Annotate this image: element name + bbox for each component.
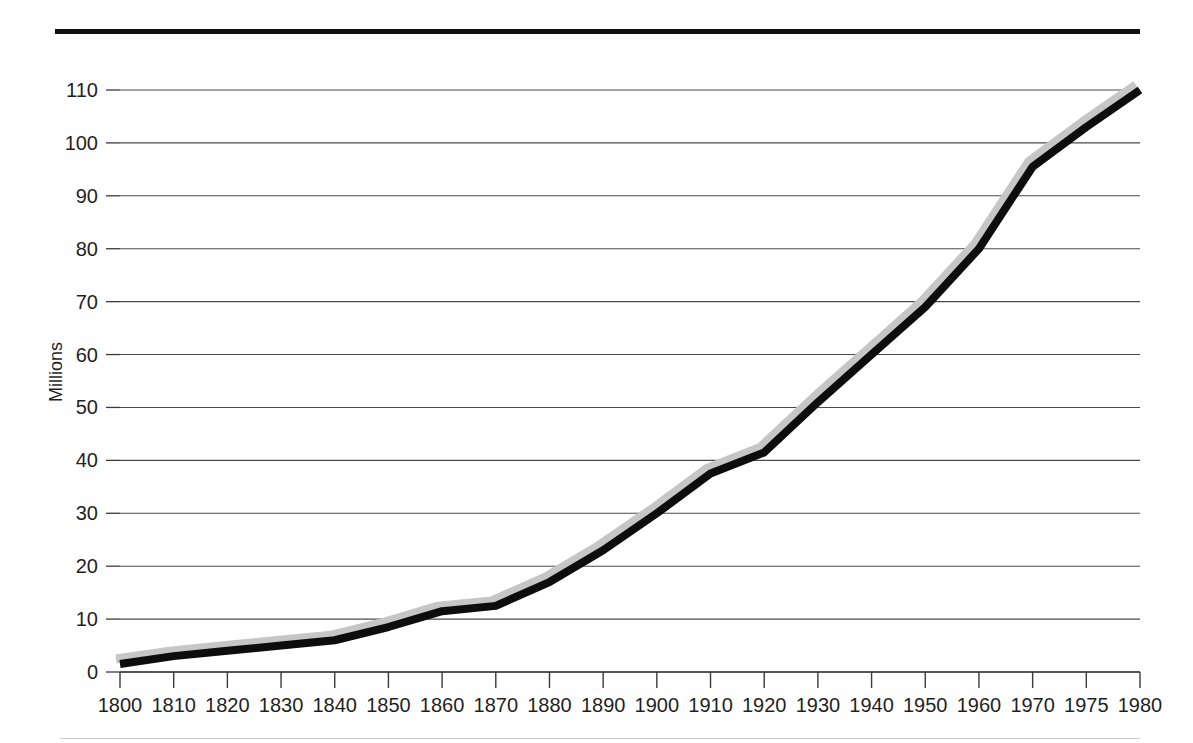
xtick-label-1975: 1975 — [1064, 694, 1109, 716]
gridlines-group — [120, 90, 1140, 672]
xtick-label-1950: 1950 — [903, 694, 948, 716]
series-line-0 — [120, 90, 1140, 664]
xtick-label-1970: 1970 — [1010, 694, 1055, 716]
xtick-label-1820: 1820 — [205, 694, 250, 716]
ytick-label-60: 60 — [76, 344, 98, 366]
ytick-label-30: 30 — [76, 502, 98, 524]
ytick-label-110: 110 — [66, 79, 98, 101]
xtick-label-1890: 1890 — [581, 694, 626, 716]
ytick-label-20: 20 — [76, 555, 98, 577]
ytick-label-0: 0 — [87, 661, 98, 683]
xtick-label-1830: 1830 — [259, 694, 304, 716]
xtick-label-1910: 1910 — [688, 694, 733, 716]
line-chart: 0102030405060708090100110 18001810182018… — [0, 0, 1193, 743]
xtick-label-1810: 1810 — [151, 694, 196, 716]
xtick-label-1960: 1960 — [957, 694, 1002, 716]
xtick-label-1940: 1940 — [849, 694, 894, 716]
ytick-label-40: 40 — [76, 449, 98, 471]
ytick-label-50: 50 — [76, 396, 98, 418]
xtick-label-1870: 1870 — [474, 694, 519, 716]
ytick-label-10: 10 — [76, 608, 98, 630]
xtick-label-1920: 1920 — [742, 694, 787, 716]
series-shadow-0 — [116, 85, 1136, 659]
y-axis-title-group: Millions — [46, 342, 66, 402]
xtick-label-1900: 1900 — [635, 694, 680, 716]
ytick-label-90: 90 — [76, 185, 98, 207]
xtick-label-1860: 1860 — [420, 694, 465, 716]
ytick-labels-group: 0102030405060708090100110 — [65, 79, 98, 683]
x-axis-group — [120, 672, 1140, 688]
ytick-stubs-group — [106, 90, 120, 672]
data-series-group — [116, 85, 1140, 664]
xtick-label-1850: 1850 — [366, 694, 411, 716]
xtick-label-1930: 1930 — [796, 694, 841, 716]
y-axis-title: Millions — [46, 342, 66, 402]
figure-container: 0102030405060708090100110 18001810182018… — [0, 0, 1193, 743]
xtick-label-1880: 1880 — [527, 694, 572, 716]
xtick-label-1980: 1980 — [1118, 694, 1163, 716]
ytick-label-80: 80 — [76, 238, 98, 260]
xtick-labels-group: 1800181018201830184018501860187018801890… — [98, 694, 1163, 716]
ytick-label-100: 100 — [65, 132, 98, 154]
ytick-label-70: 70 — [76, 291, 98, 313]
xtick-label-1840: 1840 — [312, 694, 357, 716]
xtick-label-1800: 1800 — [98, 694, 143, 716]
